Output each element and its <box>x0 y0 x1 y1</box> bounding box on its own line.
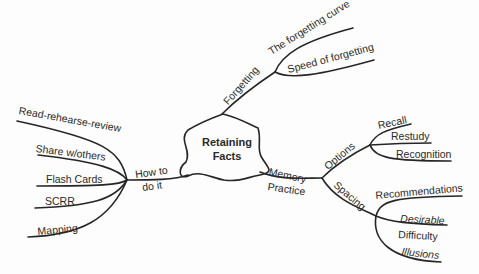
node-how-to-line2[interactable]: do it <box>142 179 163 192</box>
mind-map-canvas: Retaining Facts Forgetting The forgettin… <box>0 0 479 274</box>
node-difficulty[interactable]: Difficulty <box>398 229 438 242</box>
center-node[interactable]: Retaining Facts <box>197 136 257 164</box>
center-node-line1: Retaining <box>197 136 257 150</box>
branch-restudy <box>370 143 431 145</box>
node-restudy[interactable]: Restudy <box>391 131 430 142</box>
node-desirable[interactable]: Desirable <box>400 213 445 226</box>
node-flash-cards[interactable]: Flash Cards <box>46 174 103 185</box>
node-recognition[interactable]: Recognition <box>396 149 451 160</box>
node-scrr[interactable]: SCRR <box>45 196 75 207</box>
center-node-line2: Facts <box>197 150 257 164</box>
